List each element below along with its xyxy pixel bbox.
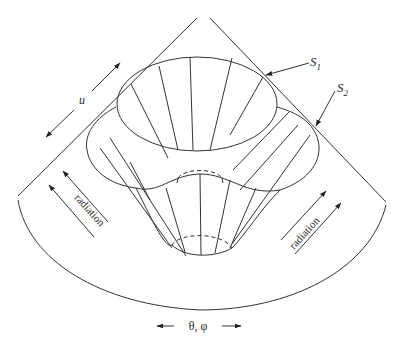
surface-s2 xyxy=(87,107,320,256)
cone-right-edge xyxy=(210,18,386,202)
radiation-left: radiation xyxy=(49,171,108,237)
u-arrow-down xyxy=(46,110,74,137)
angle-axis-label: θ, φ xyxy=(189,319,208,333)
throat xyxy=(136,174,280,255)
s2-front-edge xyxy=(136,174,280,191)
s1-label: S1 xyxy=(310,54,321,72)
s2-right-lobe xyxy=(277,107,319,190)
throat-bottom xyxy=(136,188,280,255)
u-axis: u xyxy=(46,63,120,137)
u-arrow-up xyxy=(92,63,120,91)
cone-left-edge xyxy=(18,18,197,196)
radiation-right-label: radiation xyxy=(287,214,322,251)
s2-left-lobe xyxy=(87,107,136,188)
outer-cone xyxy=(18,18,386,310)
radiation-left-label: radiation xyxy=(73,191,108,228)
radiation-right: radiation xyxy=(281,191,341,254)
u-label: u xyxy=(79,93,85,107)
cone-surface-diagram: S1 S2 u radiation radiation θ, φ xyxy=(0,0,399,341)
diagram-canvas: S1 S2 u radiation radiation θ, φ xyxy=(0,0,399,341)
s2-label: S2 xyxy=(337,80,349,98)
surface-s1 xyxy=(117,57,277,158)
s1-pointer-arrow xyxy=(266,63,309,75)
s2-pointer-arrow xyxy=(316,91,335,126)
angle-axis: θ, φ xyxy=(157,319,241,333)
